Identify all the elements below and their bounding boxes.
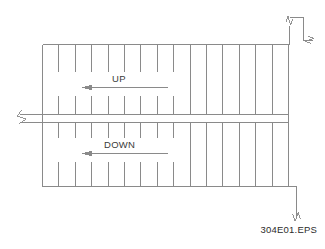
stair-plan-diagram: UP DOWN: [0, 0, 325, 249]
bottom-right-break-symbol: [289, 187, 301, 221]
down-label: DOWN: [104, 139, 135, 150]
figure-label: 304E01.EPS: [261, 224, 317, 235]
center-stringer-band: [20, 115, 289, 123]
tread-lines-upper: [59, 45, 272, 115]
stair-outline: [43, 45, 289, 187]
up-label: UP: [112, 73, 126, 84]
stair-plan-drawing: UP DOWN 304E01.EPS: [0, 0, 325, 249]
down-direction-arrow: [82, 151, 168, 157]
top-right-break-symbol: [286, 16, 314, 45]
left-break-symbol: [17, 110, 26, 124]
up-direction-arrow: [82, 85, 168, 91]
